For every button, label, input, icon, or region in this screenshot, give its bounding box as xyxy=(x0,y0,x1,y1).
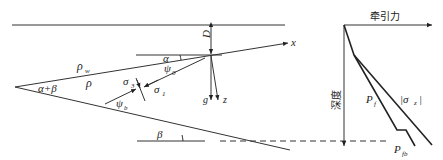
pf-label: P f xyxy=(365,93,377,108)
svg-text:f: f xyxy=(374,100,377,108)
sigma-z-label: |σ z | xyxy=(400,93,422,107)
svg-text:z: z xyxy=(413,99,417,107)
svg-text:1: 1 xyxy=(162,90,166,98)
svg-text:σ: σ xyxy=(154,83,160,95)
svg-text:w: w xyxy=(85,67,90,75)
traction-axis-label: 牵引力 xyxy=(370,10,400,22)
sigma3-label: σ 3 xyxy=(123,75,135,90)
svg-text:ψ: ψ xyxy=(116,97,123,109)
rho-label: ρ xyxy=(85,76,92,90)
beta-label: β xyxy=(156,128,163,140)
svg-text:b: b xyxy=(124,104,128,112)
force-depth-chart: 牵引力 深度 P f |σ z | P fb xyxy=(330,10,432,158)
sigma1-label: σ 1 xyxy=(154,83,166,98)
svg-text:σ: σ xyxy=(123,75,129,87)
svg-text:3: 3 xyxy=(130,82,135,90)
rho-w-label: ρ w xyxy=(76,59,90,75)
svg-text:P: P xyxy=(365,93,373,105)
depth-axis-label: 深度 xyxy=(330,90,342,110)
wedge-diagram: D α ψ 0 x ρ w ρ α+β σ 3 σ 1 ψ b g z β xyxy=(12,25,390,150)
z-axis-arrow xyxy=(211,56,218,100)
upper-slope-x-axis xyxy=(15,43,288,87)
x-axis-label: x xyxy=(290,36,296,48)
svg-text:ψ: ψ xyxy=(164,62,171,74)
z-label: z xyxy=(222,94,227,105)
beta-arc xyxy=(182,135,183,141)
diagram-canvas: D α ψ 0 x ρ w ρ α+β σ 3 σ 1 ψ b g z β xyxy=(0,0,443,160)
alpha-arc xyxy=(180,55,181,60)
depth-label: D xyxy=(200,30,212,39)
svg-text:|: | xyxy=(419,93,422,105)
psi-b-label: ψ b xyxy=(116,97,128,112)
g-label: g xyxy=(203,94,208,105)
svg-text:0: 0 xyxy=(172,69,176,77)
sigma3-arrow xyxy=(137,80,140,88)
svg-text:|σ: |σ xyxy=(400,93,409,105)
shallow-segment xyxy=(344,25,354,55)
apex-angle-label: α+β xyxy=(38,82,57,94)
pfb-label: P fb xyxy=(393,143,408,158)
svg-text:P: P xyxy=(393,143,401,155)
svg-text:fb: fb xyxy=(402,150,408,158)
svg-text:ρ: ρ xyxy=(76,59,83,73)
